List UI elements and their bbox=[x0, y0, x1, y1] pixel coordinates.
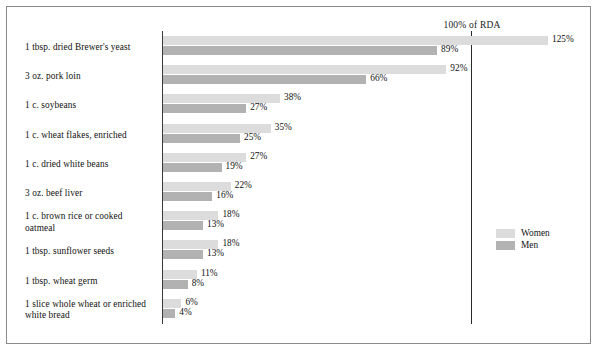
category-label-line: 3 oz. pork loin bbox=[25, 71, 157, 83]
bar-value-men: 13% bbox=[207, 248, 224, 258]
bar-men bbox=[163, 221, 203, 230]
category-label: 3 oz. pork loin bbox=[25, 71, 157, 83]
bar-men bbox=[163, 46, 437, 55]
category-label-line: oatmeal bbox=[25, 223, 157, 235]
chart-legend: Women Men bbox=[496, 228, 576, 252]
category-label: 1 c. dried white beans bbox=[25, 159, 157, 171]
bar-value-women: 27% bbox=[250, 151, 267, 161]
bar-row: 1 c. soybeans38%27% bbox=[7, 92, 590, 122]
bar-row: 1 c. dried white beans27%19% bbox=[7, 151, 590, 181]
category-label: 3 oz. beef liver bbox=[25, 188, 157, 200]
bar-value-men: 13% bbox=[207, 219, 224, 229]
legend-label-men: Men bbox=[521, 240, 538, 250]
bar-women bbox=[163, 65, 446, 74]
category-label-line: 3 oz. beef liver bbox=[25, 188, 157, 200]
bar-value-men: 27% bbox=[250, 102, 267, 112]
bar-men bbox=[163, 75, 366, 84]
category-label: 1 tbsp. wheat germ bbox=[25, 276, 157, 288]
category-label: 1 c. wheat flakes, enriched bbox=[25, 130, 157, 142]
bar-men bbox=[163, 192, 212, 201]
legend-swatch-men bbox=[496, 241, 515, 250]
category-label-line: white bread bbox=[25, 310, 157, 322]
category-label-line: 1 tbsp. dried Brewer's yeast bbox=[25, 42, 157, 54]
plot-area: 100% of RDA 1 tbsp. dried Brewer's yeast… bbox=[7, 7, 590, 343]
bar-row: 1 c. wheat flakes, enriched35%25% bbox=[7, 122, 590, 152]
category-label: 1 tbsp. dried Brewer's yeast bbox=[25, 42, 157, 54]
bar-value-women: 92% bbox=[450, 63, 467, 73]
bar-value-men: 8% bbox=[192, 278, 204, 288]
bar-value-men: 25% bbox=[244, 132, 261, 142]
category-label-line: 1 tbsp. wheat germ bbox=[25, 276, 157, 288]
bar-value-women: 11% bbox=[201, 268, 218, 278]
category-label-line: 1 tbsp. sunflower seeds bbox=[25, 246, 157, 258]
bar-value-women: 35% bbox=[275, 122, 292, 132]
category-label: 1 slice whole wheat or enrichedwhite bre… bbox=[25, 299, 157, 322]
legend-swatch-women bbox=[496, 229, 515, 238]
bar-men bbox=[163, 309, 175, 318]
bar-row: 1 tbsp. wheat germ11%8% bbox=[7, 268, 590, 298]
rda-reference-label: 100% of RDA bbox=[425, 20, 519, 30]
bar-value-women: 6% bbox=[185, 297, 197, 307]
bar-men bbox=[163, 163, 222, 172]
bar-value-men: 66% bbox=[370, 73, 387, 83]
bar-value-men: 4% bbox=[179, 307, 191, 317]
bar-value-women: 125% bbox=[552, 34, 574, 44]
legend-label-women: Women bbox=[521, 228, 550, 238]
bar-value-women: 18% bbox=[222, 209, 239, 219]
bar-value-men: 16% bbox=[216, 190, 233, 200]
bar-row: 1 tbsp. dried Brewer's yeast125%89% bbox=[7, 34, 590, 64]
bar-men bbox=[163, 134, 240, 143]
bar-women bbox=[163, 36, 548, 45]
bar-men bbox=[163, 250, 203, 259]
bar-value-men: 19% bbox=[226, 161, 243, 171]
category-label: 1 tbsp. sunflower seeds bbox=[25, 246, 157, 258]
bar-value-women: 22% bbox=[235, 180, 252, 190]
bar-men bbox=[163, 280, 188, 289]
legend-item-men: Men bbox=[496, 240, 576, 251]
category-label-line: 1 slice whole wheat or enriched bbox=[25, 299, 157, 311]
category-label-line: 1 c. dried white beans bbox=[25, 159, 157, 171]
bar-row: 1 slice whole wheat or enrichedwhite bre… bbox=[7, 297, 590, 327]
category-label-line: 1 c. soybeans bbox=[25, 100, 157, 112]
bar-men bbox=[163, 104, 246, 113]
bar-value-men: 89% bbox=[441, 44, 458, 54]
legend-item-women: Women bbox=[496, 228, 576, 239]
category-label: 1 c. brown rice or cookedoatmeal bbox=[25, 211, 157, 234]
bar-value-women: 18% bbox=[222, 238, 239, 248]
category-label: 1 c. soybeans bbox=[25, 100, 157, 112]
bar-row: 3 oz. beef liver22%16% bbox=[7, 180, 590, 210]
bar-value-women: 38% bbox=[284, 92, 301, 102]
chart-frame: 100% of RDA 1 tbsp. dried Brewer's yeast… bbox=[6, 6, 591, 344]
category-label-line: 1 c. brown rice or cooked bbox=[25, 211, 157, 223]
category-label-line: 1 c. wheat flakes, enriched bbox=[25, 130, 157, 142]
bar-row: 3 oz. pork loin92%66% bbox=[7, 63, 590, 93]
